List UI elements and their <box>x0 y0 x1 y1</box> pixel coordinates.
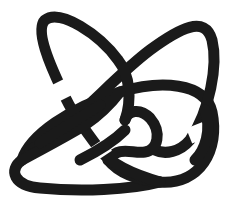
crossing-gap-3 <box>195 125 201 140</box>
knot-drawing <box>0 0 236 203</box>
knot-diagram: knot-diagram <box>0 0 236 203</box>
crossing-gap-1 <box>58 82 66 98</box>
